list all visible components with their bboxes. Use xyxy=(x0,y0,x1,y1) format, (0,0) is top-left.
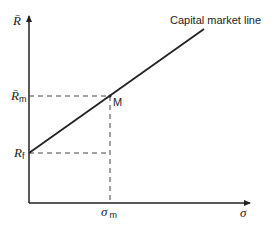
point-m-label: M xyxy=(113,96,122,108)
point-m-marker xyxy=(109,95,112,98)
capital-market-line-label: Capital market line xyxy=(170,14,261,26)
x-axis-label: σ xyxy=(240,205,247,220)
rf-label: Rf xyxy=(13,145,25,161)
rm-label: R̄m xyxy=(10,88,26,104)
y-axis-label: R̄ xyxy=(12,13,21,28)
capital-market-line-diagram: R̄ R̄m Rf M σm σ Capital market line xyxy=(0,0,272,226)
capital-market-line xyxy=(29,29,204,153)
sigma-m-label: σm xyxy=(101,204,117,220)
